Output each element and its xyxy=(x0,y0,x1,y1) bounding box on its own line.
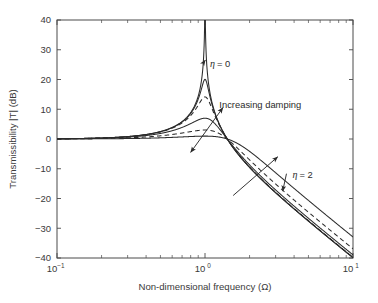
annotation-arrow-eta-zero xyxy=(204,60,205,62)
annotation-label-eta-zero: η= 0 xyxy=(210,58,230,69)
x-tick-label: 10 xyxy=(195,263,206,274)
y-tick-label: −30 xyxy=(35,223,51,234)
y-axis-tick-labels: 403020100−10−20−30−40 xyxy=(35,14,51,263)
transmissibility-chart-figure: 403020100−10−20−30−40 10−1100101 η= 0η= … xyxy=(0,0,378,303)
annotation-arrow-increasing-damping-hf xyxy=(233,157,278,196)
curve-eta-0 xyxy=(57,0,353,258)
x-axis-tick-labels: 10−1100101 xyxy=(47,262,360,274)
y-axis-title: Transmissibility |T| (dB) xyxy=(7,89,18,189)
annotation-arrow-increasing-damping xyxy=(191,108,223,153)
x-tick-label-exponent: 0 xyxy=(207,262,211,269)
y-tick-label: 40 xyxy=(40,14,51,25)
chart-canvas: 403020100−10−20−30−40 10−1100101 η= 0η= … xyxy=(0,0,378,303)
annotation-group: η= 0η= 2Increasing damping xyxy=(191,58,313,196)
x-tick-label-exponent: −1 xyxy=(57,262,65,269)
curve-eta-1 xyxy=(57,130,353,249)
annotation-arrow-eta-two xyxy=(283,174,287,191)
y-tick-label: 30 xyxy=(40,44,51,55)
x-tick-label: 10 xyxy=(47,263,58,274)
annotation-label-increasing-damping: Increasing damping xyxy=(219,99,301,110)
y-tick-label: −10 xyxy=(35,163,51,174)
x-tick-label: 10 xyxy=(343,263,354,274)
annotation-label-eta-two: η= 2 xyxy=(292,169,312,180)
y-tick-label: 10 xyxy=(40,104,51,115)
y-tick-label: −40 xyxy=(35,252,51,263)
curve-group xyxy=(57,0,353,258)
y-tick-label: 0 xyxy=(46,133,51,144)
y-tick-label: −20 xyxy=(35,193,51,204)
x-axis-title: Non-dimensional frequency (Ω) xyxy=(138,281,271,292)
y-tick-label: 20 xyxy=(40,74,51,85)
x-tick-label-exponent: 1 xyxy=(355,262,359,269)
